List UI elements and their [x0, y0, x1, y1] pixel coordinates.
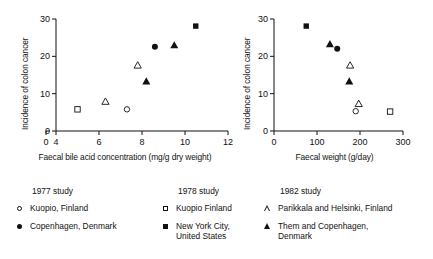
x-tick-label: 4 [53, 137, 58, 147]
legend-item: Parikkala and Helsinki, Finland [262, 203, 432, 214]
square-filled-data-point [304, 23, 309, 28]
square-filled-data-point [193, 23, 198, 28]
legend-column-1982: 1982 study Parikkala and Helsinki, Finla… [262, 180, 432, 248]
data-points [75, 23, 199, 112]
legend-item-label: Them and Copenhagen, Denmark [278, 221, 368, 241]
figure-legend: 1977 study Kuopio, Finland Copenhagen, D… [0, 180, 433, 259]
legend-column-1978: 1978 study Kuopio Finland New York City,… [160, 180, 256, 248]
square-open-data-point [387, 109, 392, 114]
triangle-open-data-point [347, 62, 354, 68]
legend-item-label: Copenhagen, Denmark [30, 221, 117, 231]
legend-heading-1978: 1978 study [178, 186, 256, 196]
triangle-open-marker-icon [262, 203, 276, 214]
circle-filled-marker-icon [14, 221, 28, 232]
x-tick-label: 300 [395, 137, 410, 147]
y-tick-label: 20 [40, 51, 50, 61]
triangle-filled-data-point [170, 41, 178, 48]
data-points [304, 23, 393, 114]
x-tick-label: 100 [309, 137, 324, 147]
legend-item: New York City, United States [160, 221, 256, 241]
square-open-marker-icon [160, 203, 174, 214]
chart-panel-right: Incidence of colon cancer 01020300100200… [236, 0, 433, 180]
legend-item-label: Parikkala and Helsinki, Finland [278, 203, 393, 213]
axes: 01020300100200300 [258, 14, 411, 147]
x-axis-title-right: Faecal weight (g/day) [236, 152, 433, 162]
scatter-figure: Incidence of colon cancer 01020304681012… [0, 0, 433, 259]
legend-item-label: Kuopio, Finland [30, 203, 88, 213]
legend-column-1977: 1977 study Kuopio, Finland Copenhagen, D… [14, 180, 164, 239]
x-axis-title-left: Faecal bile acid concentration (mg/g dry… [20, 152, 230, 162]
axes: 010203046810120 [40, 14, 233, 147]
square-filled-marker-icon [160, 221, 174, 232]
plot-area-right: 01020300100200300 [236, 0, 433, 150]
circle-filled-data-point [152, 44, 158, 50]
chart-panel-left: Incidence of colon cancer 01020304681012… [0, 0, 240, 180]
triangle-filled-marker-icon [262, 221, 276, 232]
triangle-filled-data-point [345, 77, 353, 84]
y-axis-title-left: Incidence of colon cancer [20, 38, 30, 130]
triangle-open-data-point [134, 62, 141, 68]
legend-item: Copenhagen, Denmark [14, 221, 164, 232]
legend-item-label: Kuopio Finland [176, 203, 232, 213]
legend-heading-1977: 1977 study [32, 186, 164, 196]
y-tick-label: 20 [258, 51, 268, 61]
x-tick-label: 10 [180, 137, 190, 147]
triangle-open-data-point [355, 100, 362, 106]
plot-area-left: 010203046810120 [0, 0, 240, 150]
triangle-filled-data-point [142, 77, 150, 84]
square-open-data-point [75, 107, 80, 112]
legend-item-label: New York City, United States [176, 221, 230, 241]
circle-open-data-point [124, 107, 129, 112]
y-tick-label: 30 [258, 14, 268, 24]
y-tick-label: 10 [40, 89, 50, 99]
x-tick-label: 6 [96, 137, 101, 147]
x-tick-label: 12 [223, 137, 233, 147]
legend-heading-1982: 1982 study [280, 186, 432, 196]
legend-item: Them and Copenhagen, Denmark [262, 221, 432, 241]
y-axis-title-right: Incidence of colon cancer [242, 38, 252, 130]
circle-filled-data-point [334, 46, 340, 52]
x-tick-label: 0 [271, 137, 276, 147]
x-axis-origin-label: 0 [43, 137, 48, 147]
legend-item: Kuopio Finland [160, 203, 256, 214]
circle-open-marker-icon [14, 203, 28, 214]
x-tick-label: 200 [352, 137, 367, 147]
x-tick-label: 8 [139, 137, 144, 147]
triangle-open-data-point [102, 98, 109, 104]
y-tick-label: 0 [263, 126, 268, 136]
legend-item: Kuopio, Finland [14, 203, 164, 214]
triangle-filled-data-point [326, 40, 334, 47]
y-tick-label: 10 [258, 89, 268, 99]
circle-open-data-point [353, 109, 358, 114]
y-tick-label: 30 [40, 14, 50, 24]
